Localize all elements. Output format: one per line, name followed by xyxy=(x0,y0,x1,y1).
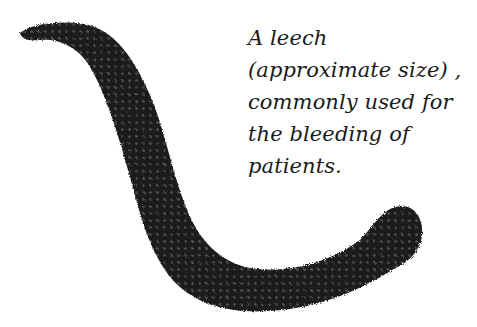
caption-text: A leech (approximate size) , commonly us… xyxy=(248,22,477,182)
caption-line: the bleeding of xyxy=(248,118,477,150)
caption-line: commonly used for xyxy=(248,86,477,118)
caption-line: patients. xyxy=(248,150,477,182)
caption-line: (approximate size) , xyxy=(248,54,477,86)
caption-line: A leech xyxy=(248,22,477,54)
